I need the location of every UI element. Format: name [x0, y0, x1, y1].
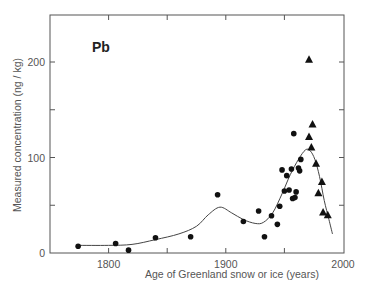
data-point-circle [269, 213, 275, 219]
data-point-circle [188, 234, 194, 240]
x-axis-title: Age of Greenland snow or ice (years) [145, 268, 319, 280]
circle-markers [75, 131, 303, 253]
data-point-circle [113, 241, 119, 247]
data-point-circle [293, 189, 299, 195]
y-tick-label: 200 [27, 56, 45, 68]
data-point-circle [75, 244, 81, 250]
panel-label: Pb [92, 39, 110, 55]
pb-concentration-chart: 0100200 180019002000 Pb Age of Greenland… [0, 0, 367, 294]
x-tick-label: 2000 [331, 258, 355, 270]
data-point-triangle [318, 177, 326, 185]
data-point-circle [286, 187, 292, 193]
data-point-circle [297, 168, 303, 174]
y-tick-label: 100 [27, 152, 45, 164]
data-point-circle [277, 203, 283, 209]
y-axis-title: Measured concentration (ng / kg) [11, 58, 23, 212]
data-point-circle [284, 173, 290, 179]
data-point-circle [282, 188, 288, 194]
data-point-triangle [305, 132, 313, 140]
data-point-triangle [314, 189, 322, 197]
y-tick-labels: 0100200 [27, 56, 45, 259]
data-point-circle [292, 195, 298, 201]
data-point-circle [153, 235, 159, 241]
data-point-circle [256, 208, 262, 214]
data-point-circle [215, 192, 221, 198]
data-point-circle [291, 131, 297, 137]
data-point-circle [279, 167, 285, 173]
data-point-circle [298, 157, 304, 163]
triangle-markers [305, 55, 332, 218]
y-tick-label: 0 [39, 247, 45, 259]
data-point-circle [241, 219, 247, 225]
data-point-triangle [307, 143, 315, 151]
data-point-circle [262, 234, 268, 240]
data-point-triangle [309, 120, 317, 128]
data-point-triangle [312, 159, 320, 167]
data-point-triangle [305, 55, 313, 63]
data-point-circle [289, 166, 295, 172]
x-tick-label: 1800 [97, 258, 121, 270]
data-point-circle [126, 247, 132, 253]
data-point-circle [275, 222, 281, 228]
